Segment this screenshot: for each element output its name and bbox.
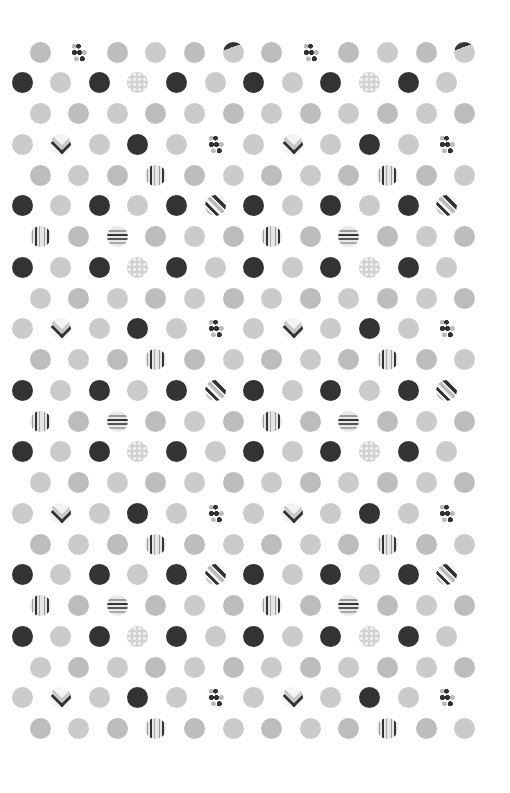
light-dot [30, 657, 51, 678]
medium-dot [338, 534, 359, 555]
light-dot [416, 472, 437, 493]
light-dot [223, 534, 244, 555]
light-dot [243, 687, 264, 708]
vertical-stripe-dot [145, 534, 166, 555]
light-dot [398, 318, 419, 339]
dot-cluster-icon [436, 318, 457, 339]
vertical-stripe-dot [145, 349, 166, 370]
medium-dot [145, 411, 166, 432]
light-dot [454, 349, 475, 370]
medium-dot [338, 349, 359, 370]
light-dot [261, 288, 282, 309]
light-dot [282, 257, 303, 278]
medium-dot [107, 165, 128, 186]
light-dot [68, 718, 89, 739]
dark-dot [359, 134, 380, 155]
medium-dot [416, 718, 437, 739]
light-dot [50, 380, 71, 401]
medium-dot [184, 165, 205, 186]
dark-dot [320, 626, 341, 647]
light-dot [145, 42, 166, 63]
dark-dot [12, 195, 33, 216]
medium-dot [416, 349, 437, 370]
light-dot [320, 318, 341, 339]
dark-dot [166, 626, 187, 647]
medium-dot [145, 226, 166, 247]
medium-dot [68, 226, 89, 247]
light-dot [30, 103, 51, 124]
medium-dot [107, 534, 128, 555]
light-dot [398, 503, 419, 524]
light-dot [282, 380, 303, 401]
dark-dot [127, 134, 148, 155]
medium-dot [377, 103, 398, 124]
dark-dot [320, 380, 341, 401]
light-dot [416, 657, 437, 678]
light-dot [282, 626, 303, 647]
medium-dot [300, 595, 321, 616]
medium-dot [107, 42, 128, 63]
chevron-icon [50, 503, 71, 524]
chevron-icon [282, 503, 303, 524]
dark-dot [243, 72, 264, 93]
medium-dot [223, 226, 244, 247]
light-dot [30, 472, 51, 493]
medium-dot [454, 288, 475, 309]
light-dot [454, 534, 475, 555]
medium-dot [377, 226, 398, 247]
vertical-stripe-dot [377, 349, 398, 370]
dark-dot [89, 195, 110, 216]
medium-dot [261, 165, 282, 186]
light-dot [127, 195, 148, 216]
medium-dot [338, 718, 359, 739]
chevron-icon [50, 134, 71, 155]
medium-dot [68, 657, 89, 678]
dark-dot [89, 626, 110, 647]
dark-dot [398, 257, 419, 278]
horizontal-stripe-dot [107, 595, 128, 616]
medium-dot [454, 595, 475, 616]
medium-dot [223, 411, 244, 432]
dark-dot [12, 72, 33, 93]
light-dot [50, 72, 71, 93]
light-dot [127, 564, 148, 585]
light-dot [50, 564, 71, 585]
light-dot [50, 195, 71, 216]
light-dot [300, 718, 321, 739]
polka-pattern-dot [127, 626, 148, 647]
dark-dot [320, 72, 341, 93]
horizontal-stripe-dot [107, 411, 128, 432]
dark-dot [243, 441, 264, 462]
light-dot [416, 288, 437, 309]
medium-dot [416, 165, 437, 186]
medium-dot [261, 718, 282, 739]
light-dot [436, 72, 457, 93]
dark-dot [89, 257, 110, 278]
light-dot [359, 380, 380, 401]
polka-pattern-dot [359, 257, 380, 278]
medium-dot [145, 657, 166, 678]
medium-dot [68, 411, 89, 432]
medium-dot [300, 288, 321, 309]
light-dot [205, 257, 226, 278]
light-dot [12, 503, 33, 524]
dark-dot [359, 687, 380, 708]
light-dot [107, 472, 128, 493]
dark-dot [359, 318, 380, 339]
medium-dot [30, 349, 51, 370]
light-dot [205, 72, 226, 93]
light-dot [454, 165, 475, 186]
light-dot [282, 441, 303, 462]
vertical-stripe-dot [377, 718, 398, 739]
medium-dot [300, 657, 321, 678]
dark-dot [243, 195, 264, 216]
light-dot [184, 472, 205, 493]
medium-dot [68, 595, 89, 616]
light-dot [377, 42, 398, 63]
light-dot [89, 318, 110, 339]
vertical-stripe-dot [377, 165, 398, 186]
medium-dot [107, 718, 128, 739]
dark-dot [89, 380, 110, 401]
medium-dot [300, 103, 321, 124]
dark-dot [243, 564, 264, 585]
